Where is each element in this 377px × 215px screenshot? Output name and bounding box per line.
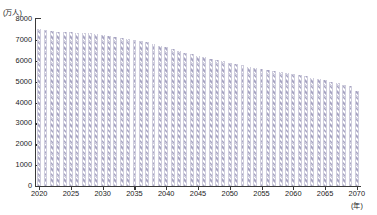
bar [133, 40, 137, 186]
bar [120, 38, 124, 186]
bar [37, 29, 41, 186]
bar [107, 36, 111, 186]
bar [241, 65, 245, 186]
bar [56, 32, 60, 186]
bar [260, 69, 264, 186]
bar [221, 61, 225, 186]
bar [234, 64, 238, 186]
bar [196, 56, 200, 186]
bar [342, 85, 346, 186]
bar [113, 37, 117, 186]
bar [44, 30, 48, 186]
bar [272, 71, 276, 186]
y-axis-tick-label: 7000 [2, 36, 32, 44]
bar [69, 32, 73, 186]
bar [164, 47, 168, 186]
population-projection-figure: 将来推計人口の推移（総数） (万人) (年) 01000200030004000… [0, 0, 377, 215]
y-axis-tick-label: 8000 [2, 15, 32, 23]
bar [304, 76, 308, 186]
bar [323, 80, 327, 186]
bar [291, 74, 295, 186]
bar [215, 60, 219, 186]
bar [285, 73, 289, 186]
y-axis-tick-label: 2000 [2, 140, 32, 148]
bar [145, 42, 149, 186]
bar [152, 44, 156, 186]
bar [63, 32, 67, 186]
bar [126, 39, 130, 186]
bar [50, 31, 54, 186]
bar [158, 46, 162, 186]
bar [177, 51, 181, 186]
bar [253, 68, 257, 186]
bar [82, 33, 86, 186]
y-axis-tick-label: 3000 [2, 119, 32, 127]
y-axis-tick-label: 4000 [2, 99, 32, 107]
bar [88, 33, 92, 186]
bar [139, 41, 143, 186]
bar [171, 49, 175, 186]
bar [94, 34, 98, 186]
y-axis-tick-label: 6000 [2, 57, 32, 65]
y-axis-tick-label: 5000 [2, 78, 32, 86]
bar [183, 53, 187, 186]
bar [317, 79, 321, 186]
bar [355, 91, 359, 186]
bar [209, 59, 213, 186]
bar [310, 78, 314, 186]
x-axis-unit-label: (年) [351, 201, 363, 210]
y-axis-tick-label: 1000 [2, 161, 32, 169]
bar [190, 54, 194, 186]
x-axis-tick-label: 2070 [337, 189, 377, 198]
bar [75, 33, 79, 186]
bar [349, 86, 353, 186]
bar [298, 75, 302, 186]
bar [279, 72, 283, 186]
bar [329, 82, 333, 186]
bar [247, 67, 251, 186]
bar [336, 83, 340, 186]
plot-area [36, 19, 360, 186]
bar [228, 63, 232, 186]
bar [266, 70, 270, 186]
bar [202, 57, 206, 186]
chart-title: 将来推計人口の推移（総数） [0, 0, 377, 1]
bar [101, 35, 105, 186]
